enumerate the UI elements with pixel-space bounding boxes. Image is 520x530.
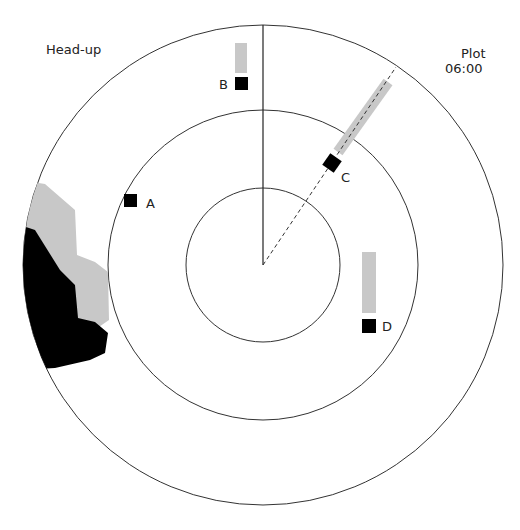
target-c-label: C [341, 170, 350, 185]
target-b-echo[interactable] [235, 77, 248, 90]
time-label: 06:00 [445, 61, 482, 76]
land-echo [20, 180, 109, 370]
target-a-label: A [146, 196, 155, 211]
target-d-echo[interactable] [362, 319, 376, 333]
target-c-echo[interactable] [322, 153, 341, 172]
target-b-label: B [219, 77, 228, 92]
mode-label: Plot [461, 46, 486, 61]
target-a-echo[interactable] [124, 194, 137, 207]
target-d-trail [362, 252, 376, 313]
target-d-label: D [382, 319, 392, 334]
radar-display [0, 0, 520, 530]
target-b-trail [235, 43, 247, 73]
orientation-label: Head-up [46, 42, 101, 57]
